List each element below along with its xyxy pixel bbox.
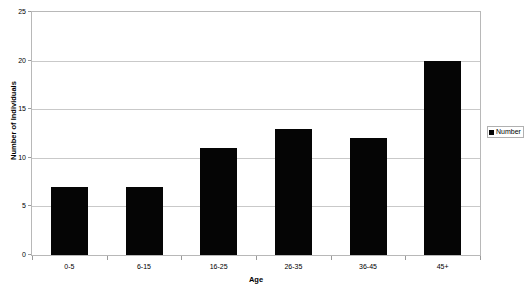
legend-swatch-icon (489, 130, 494, 135)
y-axis-tick-label: 0 (3, 251, 26, 258)
bar-chart: 0510152025 0-56-1516-2526-3536-4545+ Age… (0, 0, 527, 289)
x-axis-category-label: 36-45 (331, 263, 406, 271)
x-axis-tick-mark (405, 256, 406, 260)
y-axis-tick-mark (28, 157, 31, 158)
x-axis-tick-mark (331, 256, 332, 260)
x-axis-category-label: 0-5 (32, 263, 107, 271)
y-axis-tick-mark (28, 205, 31, 206)
y-axis-tick-label: 25 (3, 8, 26, 15)
x-axis-category-label: 16-25 (181, 263, 256, 271)
y-axis-tick-mark (28, 11, 31, 12)
legend-label: Number (496, 128, 521, 136)
x-axis-category-label: 6-15 (107, 263, 182, 271)
x-axis-tick-mark (32, 256, 33, 260)
y-axis-tick-label: 5 (3, 202, 26, 209)
y-axis-tick-mark (28, 60, 31, 61)
x-axis-tick-mark (181, 256, 182, 260)
x-axis-tick-mark (480, 256, 481, 260)
x-axis-category-label: 45+ (405, 263, 480, 271)
x-axis-tick-mark (107, 256, 108, 260)
legend[interactable]: Number (487, 126, 524, 138)
x-axis-category-label: 26-35 (256, 263, 331, 271)
x-axis-title: Age (31, 275, 481, 284)
y-axis-title: Number of Individuals (9, 61, 18, 181)
x-axis-tick-mark (256, 256, 257, 260)
y-axis-ticks: 0510152025 (0, 11, 527, 256)
y-axis-tick-mark (28, 108, 31, 109)
y-axis-tick-mark (28, 254, 31, 255)
